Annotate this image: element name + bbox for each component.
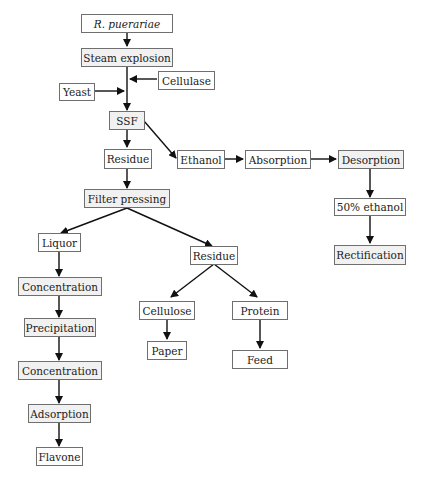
node-precipitation: Precipitation bbox=[24, 318, 96, 337]
node-rectification: Rectification bbox=[334, 245, 406, 265]
node-desorption: Desorption bbox=[338, 150, 404, 169]
node-r-puerariae: R. puerariae bbox=[81, 14, 173, 33]
node-residue-2: Residue bbox=[190, 246, 238, 265]
node-steam-explosion: Steam explosion bbox=[81, 48, 173, 67]
node-protein: Protein bbox=[232, 301, 288, 320]
node-filter-pressing: Filter pressing bbox=[84, 189, 170, 208]
node-paper: Paper bbox=[147, 341, 187, 360]
flowchart-canvas: R. puerariae Steam explosion Cellulase Y… bbox=[0, 0, 424, 483]
node-cellulase: Cellulase bbox=[158, 71, 215, 90]
node-residue-1: Residue bbox=[104, 149, 152, 169]
node-flavone: Flavone bbox=[36, 447, 83, 466]
node-absorption: Absorption bbox=[245, 150, 311, 169]
node-ethanol: Ethanol bbox=[177, 150, 225, 169]
node-adsorption: Adsorption bbox=[28, 404, 91, 423]
node-yeast: Yeast bbox=[59, 83, 95, 101]
node-ssf: SSF bbox=[109, 111, 145, 130]
node-feed: Feed bbox=[232, 350, 288, 369]
node-concentration-2: Concentration bbox=[18, 361, 102, 380]
node-concentration-1: Concentration bbox=[18, 277, 102, 296]
node-liquor: Liquor bbox=[38, 233, 81, 252]
node-50pct-ethanol: 50% ethanol bbox=[334, 198, 406, 216]
node-cellulose: Cellulose bbox=[139, 301, 195, 320]
